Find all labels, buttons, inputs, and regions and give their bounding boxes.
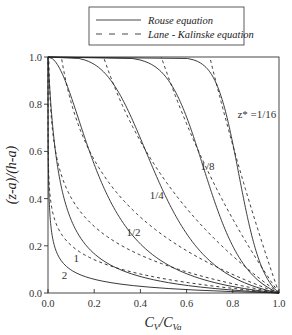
curve-label: z* =1/16 [237, 108, 276, 120]
curve-labels: z* =1/161/81/41/212 [62, 108, 277, 280]
x-tick-label: 0.4 [134, 298, 148, 309]
x-tick-label: 0.6 [180, 298, 193, 309]
y-tick-label: 0.2 [29, 241, 42, 252]
rouse-curve [48, 57, 279, 293]
curves [48, 57, 279, 293]
axis-ticks: 0.00.20.40.60.81.00.00.20.40.60.81.0 [29, 52, 286, 309]
x-tick-label: 1.0 [272, 298, 285, 309]
legend-lane-label: Lane - Kalinske equation [147, 29, 254, 40]
rouse-curve [48, 57, 279, 293]
rouse-curve [48, 57, 279, 293]
curve-label: 1 [73, 252, 79, 264]
rouse-curve [48, 57, 279, 293]
curve-label: 1/2 [127, 226, 141, 238]
lane-kalinske-curve [61, 57, 279, 293]
y-axis-label: (z-a)/(h-a) [4, 146, 20, 205]
legend-rouse-label: Rouse equation [147, 15, 213, 26]
curve-label: 1/4 [150, 189, 165, 201]
lane-kalinske-curve [49, 57, 279, 293]
lane-kalinske-curve [104, 57, 279, 293]
y-tick-label: 0.8 [29, 99, 42, 110]
x-tick-label: 0.8 [226, 298, 239, 309]
rouse-curve [48, 57, 279, 293]
lane-kalinske-curve [48, 57, 279, 293]
y-tick-label: 0.6 [29, 146, 42, 157]
legend: Rouse equation Lane - Kalinske equation [89, 7, 254, 45]
x-tick-label: 0.0 [41, 298, 54, 309]
chart: Rouse equation Lane - Kalinske equation … [0, 0, 292, 335]
y-tick-label: 1.0 [29, 52, 42, 63]
rouse-curve [48, 57, 279, 293]
y-tick-label: 0.0 [29, 288, 42, 299]
curve-label: 2 [62, 269, 68, 281]
plot-frame [48, 57, 279, 293]
x-tick-label: 0.2 [88, 298, 101, 309]
curve-label: 1/8 [200, 160, 215, 172]
y-tick-label: 0.4 [29, 194, 43, 205]
x-axis-label: CV/CVa [144, 315, 182, 332]
